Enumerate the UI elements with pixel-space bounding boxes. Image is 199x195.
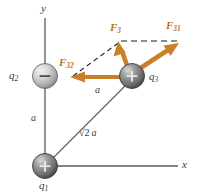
charge-label-q1: q1 <box>39 180 48 192</box>
diagonal-distance-line <box>48 82 129 163</box>
charge-sphere-q3 <box>120 64 145 89</box>
force-label-f3: F3 <box>110 22 121 34</box>
physics-force-diagram: y x q2 q3 q1 a a √2 a F32 F3 F31 <box>0 0 199 195</box>
force-label-f32: F32 <box>59 57 74 69</box>
charge-label-q3: q3 <box>149 71 158 83</box>
distance-label-vertical-a: a <box>31 113 36 123</box>
charge-sphere-q1 <box>33 154 58 179</box>
distance-label-horizontal-a: a <box>95 85 100 95</box>
x-axis-label: x <box>182 159 187 170</box>
charge-sphere-q2 <box>33 64 58 89</box>
distance-label-diagonal: √2 a <box>79 128 97 138</box>
y-axis-label: y <box>41 3 46 14</box>
dashed-parallelogram-black-side <box>73 41 121 76</box>
force-label-f31: F31 <box>166 20 181 32</box>
charge-label-q2: q2 <box>9 70 18 82</box>
